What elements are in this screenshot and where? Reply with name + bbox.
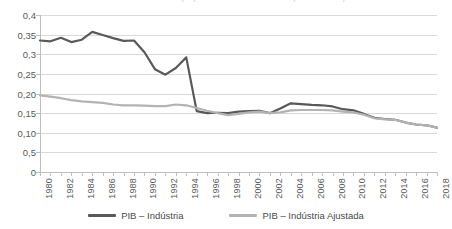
legend-swatch-icon <box>88 214 116 217</box>
x-axis-tick <box>155 172 156 176</box>
x-axis-tick-label: 2014 <box>399 178 409 199</box>
x-axis-tick <box>364 172 365 176</box>
x-axis-tick <box>144 172 145 176</box>
x-axis-tick <box>270 172 271 176</box>
x-axis-tick <box>61 172 62 176</box>
x-axis-tick-label: 2008 <box>337 178 347 199</box>
x-axis-tick <box>427 172 428 176</box>
x-axis-tick <box>280 172 281 176</box>
x-axis-tick <box>165 172 166 176</box>
x-axis-tick <box>82 172 83 176</box>
x-axis-tick <box>322 172 323 176</box>
x-axis-tick <box>374 172 375 176</box>
x-axis-tick <box>259 172 260 176</box>
x-axis-tick-label: 2000 <box>253 178 263 199</box>
x-axis-tick <box>406 172 407 176</box>
chart-figure: Gráfico 1 – Participação da indústria no… <box>0 0 452 229</box>
x-axis-tick <box>124 172 125 176</box>
legend-item[interactable]: PIB – Indústria Ajustada <box>229 210 363 221</box>
x-axis-tick <box>113 172 114 176</box>
x-axis-tick <box>385 172 386 176</box>
x-axis-tick <box>353 172 354 176</box>
x-axis-tick-label: 1980 <box>44 178 54 199</box>
x-axis-tick-label: 2004 <box>295 178 305 199</box>
x-axis-tick <box>228 172 229 176</box>
x-axis-tick <box>50 172 51 176</box>
x-axis-tick <box>333 172 334 176</box>
legend-label: PIB – Indústria <box>121 210 183 221</box>
x-axis-tick <box>291 172 292 176</box>
x-axis-tick-label: 2018 <box>441 178 451 199</box>
x-axis-tick-label: 2012 <box>378 178 388 199</box>
x-axis-tick-label: 1998 <box>232 178 242 199</box>
series-container <box>40 15 437 172</box>
x-axis-tick-label: 2010 <box>357 178 367 199</box>
x-axis-tick-label: 2016 <box>420 178 430 199</box>
x-axis-tick <box>218 172 219 176</box>
x-axis-tick-label: 1994 <box>190 178 200 199</box>
x-axis-tick-label: 1992 <box>169 178 179 199</box>
x-axis-tick <box>239 172 240 176</box>
x-axis-tick <box>301 172 302 176</box>
x-axis-tick-label: 1982 <box>65 178 75 199</box>
x-axis-tick <box>343 172 344 176</box>
x-axis-tick <box>207 172 208 176</box>
x-axis-tick <box>71 172 72 176</box>
legend-item[interactable]: PIB – Indústria <box>88 210 183 221</box>
legend-swatch-icon <box>229 214 257 217</box>
x-axis-tick-label: 1986 <box>107 178 117 199</box>
x-axis-tick-label: 1996 <box>211 178 221 199</box>
chart-legend: PIB – IndústriaPIB – Indústria Ajustada <box>0 205 452 225</box>
x-axis-tick <box>249 172 250 176</box>
x-axis-tick <box>416 172 417 176</box>
x-axis-tick <box>437 172 438 176</box>
legend-label: PIB – Indústria Ajustada <box>262 210 363 221</box>
x-axis-tick-label: 2006 <box>316 178 326 199</box>
x-axis-tick-label: 1988 <box>128 178 138 199</box>
x-axis-tick <box>92 172 93 176</box>
x-axis-tick-label: 1990 <box>148 178 158 199</box>
x-axis-tick <box>395 172 396 176</box>
x-axis-tick-label: 1984 <box>86 178 96 199</box>
x-axis-tick <box>312 172 313 176</box>
x-axis-tick <box>176 172 177 176</box>
x-axis-tick-label: 2002 <box>274 178 284 199</box>
x-axis-tick <box>103 172 104 176</box>
x-axis-tick <box>134 172 135 176</box>
x-axis-tick <box>197 172 198 176</box>
x-axis-tick <box>186 172 187 176</box>
x-axis-tick <box>40 172 41 176</box>
